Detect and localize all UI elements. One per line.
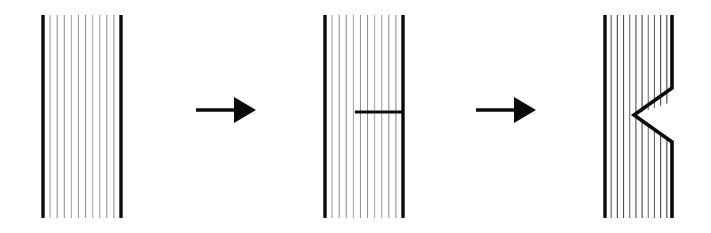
fracture-sequence-diagram: [0, 0, 711, 233]
figure-canvas: [0, 0, 711, 233]
